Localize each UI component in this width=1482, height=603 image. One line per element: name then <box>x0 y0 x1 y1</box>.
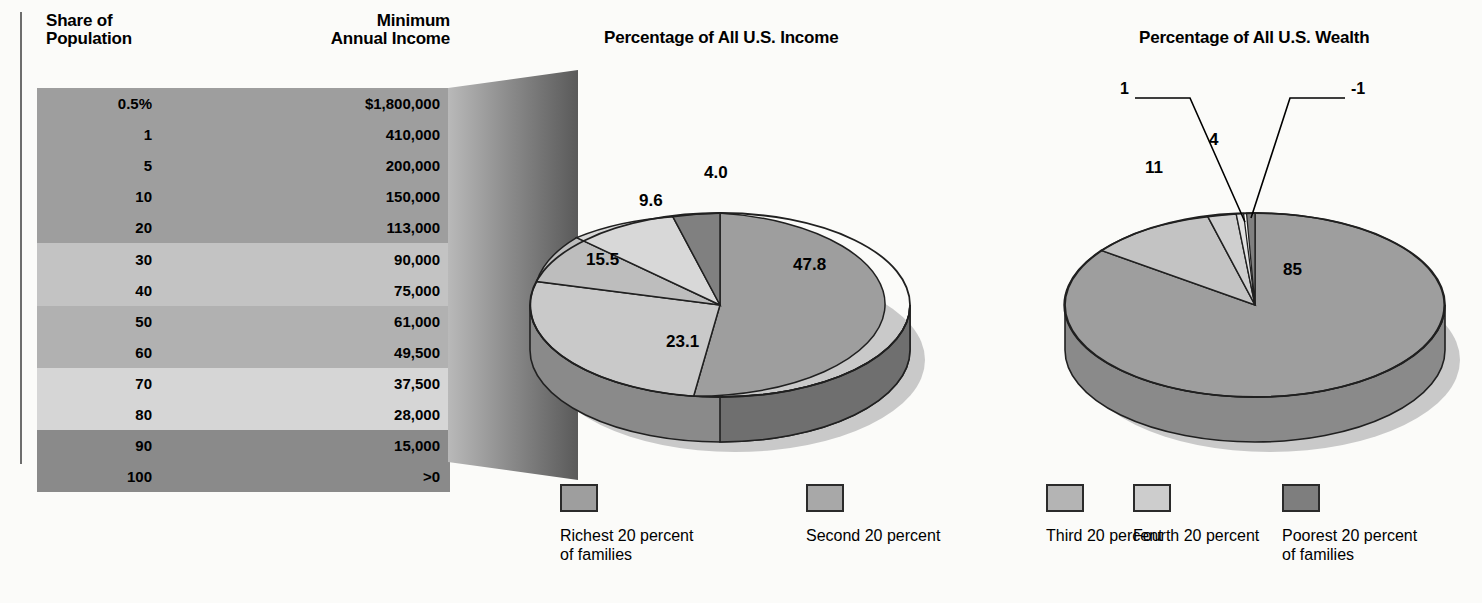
legend-swatch <box>806 484 844 512</box>
wealth-label-poorest: -1 <box>1351 80 1365 98</box>
table-cell-share: 1 <box>37 126 152 143</box>
table-row: 20113,000 <box>37 212 450 243</box>
legend-swatch <box>560 484 598 512</box>
table-cell-income: $1,800,000 <box>365 95 440 112</box>
legend-item: Second 20 percent <box>806 484 940 545</box>
legend-swatch <box>1282 484 1320 512</box>
wealth-label-third: 4 <box>1209 130 1218 150</box>
table-cell-share: 90 <box>37 437 152 454</box>
table-cell-income: 15,000 <box>394 437 440 454</box>
table-row: 3090,000 <box>37 243 450 274</box>
income-label-second: 23.1 <box>666 332 699 352</box>
table-cell-share: 70 <box>37 375 152 392</box>
wealth-chart-title: Percentage of All U.S. Wealth <box>1139 28 1369 48</box>
table-cell-share: 20 <box>37 219 152 236</box>
table-header-income: Minimum Annual Income <box>250 12 450 48</box>
table-row: 9015,000 <box>37 430 450 461</box>
income-chart-title: Percentage of All U.S. Income <box>604 28 838 48</box>
legend-label: Richest 20 percent of families <box>560 526 693 564</box>
income-distribution-table: 0.5%$1,800,0001410,0005200,00010150,0002… <box>37 88 450 462</box>
table-row: 1410,000 <box>37 119 450 150</box>
income-label-richest: 47.8 <box>793 255 826 275</box>
income-label-fourth: 9.6 <box>639 191 663 211</box>
wealth-label-fourth: 1 <box>1120 80 1129 98</box>
table-row: 6049,500 <box>37 337 450 368</box>
table-drop-shadow <box>450 88 466 462</box>
table-cell-share: 60 <box>37 344 152 361</box>
table-row: 4075,000 <box>37 275 450 306</box>
legend-label: Poorest 20 percent of families <box>1282 526 1417 564</box>
left-vertical-rule <box>20 12 22 464</box>
table-cell-share: 40 <box>37 282 152 299</box>
table-cell-income: 61,000 <box>394 313 440 330</box>
wealth-callout-line-right <box>1251 98 1345 218</box>
table-row: 7037,500 <box>37 368 450 399</box>
legend-swatch <box>1046 484 1084 512</box>
legend-swatch <box>1133 484 1171 512</box>
table-cell-income: 113,000 <box>387 219 440 236</box>
table-cell-share: 30 <box>37 251 152 268</box>
table-cell-share: 50 <box>37 313 152 330</box>
table-cell-share: 0.5% <box>37 95 152 112</box>
table-cell-income: 37,500 <box>394 375 440 392</box>
table-cell-income: 28,000 <box>394 406 440 423</box>
wealth-label-richest: 85 <box>1283 260 1302 280</box>
legend-item: Fourth 20 percent <box>1133 484 1259 545</box>
table-cell-share: 80 <box>37 406 152 423</box>
table-row: 0.5%$1,800,000 <box>37 88 450 119</box>
table-cell-share: 5 <box>37 157 152 174</box>
table-cell-income: 150,000 <box>386 188 440 205</box>
table-cell-income: 75,000 <box>394 282 440 299</box>
wealth-label-second: 11 <box>1145 158 1163 178</box>
legend-item: Poorest 20 percent of families <box>1282 484 1417 564</box>
table-cell-income: 200,000 <box>386 157 440 174</box>
income-pie-chart: 47.8 23.1 15.5 9.6 4.0 <box>505 60 935 460</box>
table-row: 5200,000 <box>37 150 450 181</box>
table-row: 10150,000 <box>37 181 450 212</box>
income-label-poorest: 4.0 <box>704 163 728 183</box>
wealth-pie-chart: 85 11 4 1 -1 <box>1040 60 1470 460</box>
table-cell-share: 10 <box>37 188 152 205</box>
legend-label: Second 20 percent <box>806 526 940 545</box>
legend-label: Fourth 20 percent <box>1133 526 1259 545</box>
table-row: 5061,000 <box>37 306 450 337</box>
infographic-page: Share of Population Minimum Annual Incom… <box>0 0 1482 603</box>
chart-legend: Richest 20 percent of familiesSecond 20 … <box>0 470 1482 600</box>
table-cell-income: 49,500 <box>394 344 440 361</box>
table-header-share: Share of Population <box>46 12 132 48</box>
table-row: 8028,000 <box>37 399 450 430</box>
legend-item: Richest 20 percent of families <box>560 484 693 564</box>
table-cell-income: 410,000 <box>386 126 440 143</box>
income-label-third: 15.5 <box>586 250 619 270</box>
table-cell-income: 90,000 <box>394 251 440 268</box>
